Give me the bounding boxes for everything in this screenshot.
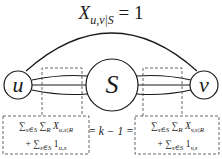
diagram-title: Xu,v|S = 1 xyxy=(0,2,222,28)
node-u-label: u xyxy=(4,72,32,98)
node-v-label: v xyxy=(190,72,218,98)
equation-left-line1: ∑s∈S ∑R Xu,s|R xyxy=(4,119,88,137)
equation-right-line1: ∑s∈S ∑R Xv,s|R xyxy=(136,119,219,137)
equation-right: ∑s∈S ∑R Xv,s|R + ∑s∈S 1v,s xyxy=(136,119,219,155)
edges-u-s xyxy=(32,76,87,95)
equation-right-line2: + ∑s∈S 1v,s xyxy=(136,137,219,155)
equation-left-line2: + ∑s∈S 1u,s xyxy=(4,137,88,155)
edges-s-v xyxy=(137,76,191,95)
equation-left: ∑s∈S ∑R Xu,s|R + ∑s∈S 1u,s xyxy=(4,119,88,155)
node-s-label: S xyxy=(90,70,134,100)
equation-middle: = k − 1 = xyxy=(82,125,140,137)
